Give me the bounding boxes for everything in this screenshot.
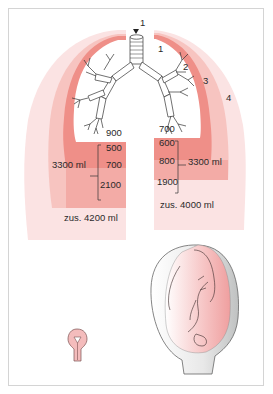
right-value-1: 600 — [159, 138, 175, 148]
left-value-3: 2100 — [100, 180, 121, 190]
non-pregnant-uterus-icon — [68, 329, 87, 361]
right-bracket-label: 3300 ml — [188, 157, 222, 167]
right-value-2: 800 — [159, 156, 175, 166]
pregnant-uterus-icon — [151, 245, 239, 374]
marker-right-3: 3 — [203, 76, 208, 86]
marker-right-4: 4 — [226, 93, 231, 103]
left-total: zus. 4200 ml — [64, 213, 118, 223]
marker-right-1: 1 — [158, 44, 163, 54]
lung-volume-diagram — [0, 0, 273, 394]
marker-right-2: 2 — [183, 62, 188, 72]
right-value-0: 700 — [159, 124, 175, 134]
left-value-1: 500 — [106, 143, 122, 153]
right-total: zus. 4000 ml — [160, 200, 214, 210]
left-value-0: 900 — [106, 128, 122, 138]
left-bracket-label: 3300 ml — [52, 160, 86, 170]
marker-trachea: 1 — [140, 18, 145, 28]
right-value-3: 1900 — [157, 177, 178, 187]
left-value-2: 700 — [106, 160, 122, 170]
